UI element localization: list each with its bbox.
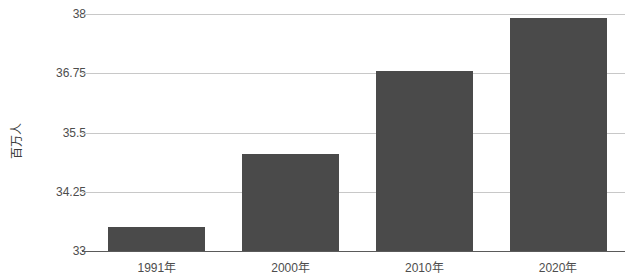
- bars-layer: [90, 14, 625, 251]
- y-axis-tick-label: 38: [28, 7, 86, 21]
- x-axis-tick-labels: 1991年2000年2010年2020年: [90, 254, 625, 280]
- bar-chart: 百万人 3334.2535.536.7538 1991年2000年2010年20…: [0, 0, 632, 280]
- x-axis-tick-label: 2000年: [224, 258, 358, 275]
- y-axis-tick-labels: 3334.2535.536.7538: [28, 0, 86, 280]
- bar[interactable]: [510, 18, 607, 251]
- y-axis-tick-mark: [82, 14, 90, 15]
- y-axis-tick-label: 36.75: [28, 66, 86, 80]
- plot-area: [90, 14, 625, 251]
- y-axis-title-label: 百万人: [7, 122, 24, 158]
- y-axis-tick-mark: [82, 251, 90, 252]
- y-axis-tick-mark: [82, 192, 90, 193]
- y-axis-tick-label: 34.25: [28, 185, 86, 199]
- y-axis-tick-label: 35.5: [28, 126, 86, 140]
- y-axis-tick-mark: [82, 133, 90, 134]
- y-axis-tick-label: 33: [28, 244, 86, 258]
- bar[interactable]: [242, 154, 339, 251]
- gridline: [90, 251, 625, 252]
- y-axis-title: 百万人: [0, 0, 30, 280]
- bar[interactable]: [108, 227, 205, 251]
- x-axis-tick-label: 1991年: [90, 258, 224, 275]
- bar[interactable]: [376, 71, 473, 251]
- y-axis-tick-mark: [82, 73, 90, 74]
- x-axis-tick-label: 2010年: [358, 258, 492, 275]
- x-axis-tick-label: 2020年: [491, 258, 625, 275]
